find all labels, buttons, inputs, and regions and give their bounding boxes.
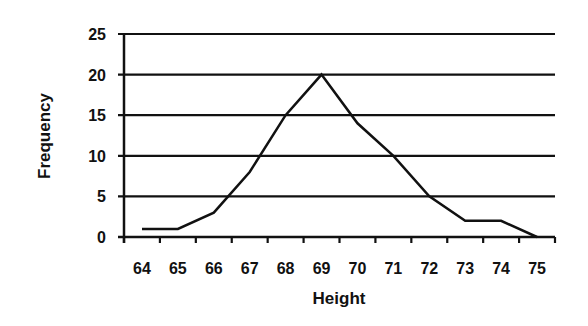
x-axis-title: Height xyxy=(313,289,366,308)
y-axis-tick-labels: 0510152025 xyxy=(88,26,106,246)
x-tick-label: 66 xyxy=(205,260,223,277)
x-tick-label: 69 xyxy=(313,260,331,277)
x-tick-label: 73 xyxy=(456,260,474,277)
x-tick-label: 64 xyxy=(133,260,151,277)
y-axis-title: Frequency xyxy=(35,92,54,179)
line-chart: 0510152025 646566676869707172737475 Heig… xyxy=(0,0,588,326)
x-tick-label: 68 xyxy=(277,260,295,277)
x-tick-label: 75 xyxy=(528,260,546,277)
y-tick-label: 5 xyxy=(97,188,106,205)
x-tick-label: 65 xyxy=(169,260,187,277)
x-tick-label: 67 xyxy=(241,260,259,277)
y-tick-label: 15 xyxy=(88,107,106,124)
y-tick-label: 10 xyxy=(88,148,106,165)
x-tick-label: 71 xyxy=(384,260,402,277)
horizontal-gridlines xyxy=(118,34,555,196)
x-tick-label: 70 xyxy=(349,260,367,277)
x-tick-label: 74 xyxy=(492,260,510,277)
x-axis-tick-labels: 646566676869707172737475 xyxy=(133,260,546,277)
x-tick-label: 72 xyxy=(420,260,438,277)
y-tick-label: 0 xyxy=(97,229,106,246)
y-tick-label: 25 xyxy=(88,26,106,43)
y-tick-label: 20 xyxy=(88,67,106,84)
